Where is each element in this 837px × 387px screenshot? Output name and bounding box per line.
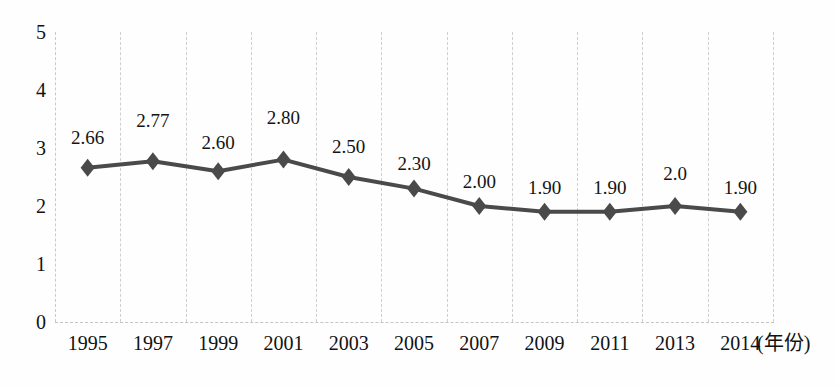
x-axis: 1995199719992001200320052007200920112013…	[0, 330, 837, 364]
x-axis-tick-label: 1999	[198, 330, 238, 356]
series-marker	[407, 180, 421, 198]
data-point-label: 2.60	[202, 132, 235, 154]
x-axis-tick-label: 2009	[525, 330, 565, 356]
x-axis-tick-label: 2011	[590, 330, 629, 356]
data-point-label: 2.80	[267, 107, 300, 129]
data-point-label: 1.90	[528, 177, 561, 199]
series-marker	[668, 197, 682, 215]
data-point-label: 2.30	[397, 153, 430, 175]
x-axis-tick-label: 2001	[263, 330, 303, 356]
x-axis-tick-label: 2003	[329, 330, 369, 356]
series-marker	[733, 203, 747, 221]
data-point-label: 2.0	[663, 163, 687, 185]
data-point-label: 1.90	[724, 177, 757, 199]
series-marker	[342, 168, 356, 186]
data-point-label: 2.77	[136, 110, 169, 132]
data-point-label: 2.00	[463, 171, 496, 193]
series-marker	[472, 197, 486, 215]
data-point-label: 2.50	[332, 136, 365, 158]
x-axis-tick-label: 2013	[655, 330, 695, 356]
series-marker	[276, 151, 290, 169]
data-series	[0, 0, 837, 387]
x-axis-tick-label: 1995	[68, 330, 108, 356]
x-axis-tick-label: 2014	[720, 330, 760, 356]
x-axis-tick-label: 1997	[133, 330, 173, 356]
series-marker	[538, 203, 552, 221]
series-marker	[81, 159, 95, 177]
series-marker	[603, 203, 617, 221]
series-marker	[146, 152, 160, 170]
series-marker	[211, 162, 225, 180]
data-point-label: 2.66	[71, 127, 104, 149]
x-axis-title: (年份)	[757, 330, 810, 356]
data-point-label: 1.90	[593, 177, 626, 199]
x-axis-tick-label: 2005	[394, 330, 434, 356]
x-axis-tick-label: 2007	[459, 330, 499, 356]
chart-figure: 543210 199519971999200120032005200720092…	[0, 0, 837, 387]
